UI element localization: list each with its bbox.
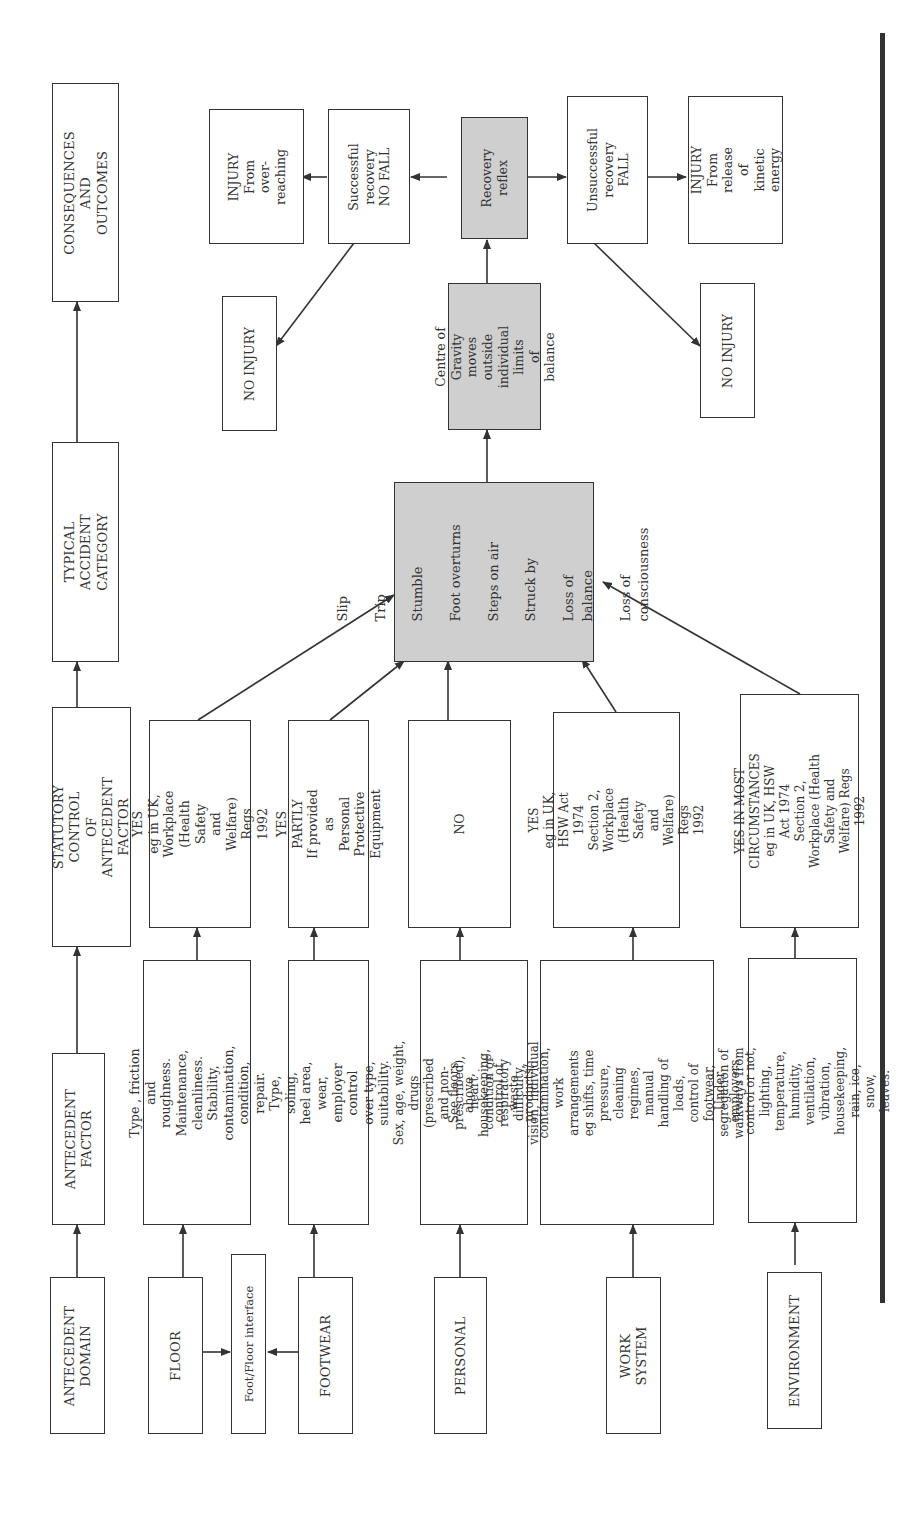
injury-overreaching-box: INJURY From over- reaching bbox=[209, 109, 304, 244]
factor-work-system: See floors above, housekeeping, control … bbox=[540, 960, 714, 1225]
domain-environment: ENVIRONMENT bbox=[767, 1272, 822, 1429]
consequences-header: CONSEQUENCES AND OUTCOMES bbox=[52, 83, 119, 302]
recovery-reflex-box: Recovery reflex bbox=[461, 117, 528, 239]
domain-foot-floor-interface: Foot/Floor interface bbox=[231, 1254, 266, 1434]
unsuccessful-recovery-box: Unsuccessful recovery FALL bbox=[567, 96, 648, 244]
statutory-control-header: STATUTORY CONTROL OF ANTECEDENT FACTOR bbox=[52, 707, 131, 947]
statutory-personal: NO bbox=[408, 720, 511, 928]
centre-of-gravity-box: Centre of Gravity moves outside individu… bbox=[448, 283, 541, 430]
no-injury-right-box: NO INJURY bbox=[700, 283, 755, 418]
domain-work-system: WORK SYSTEM bbox=[606, 1277, 661, 1434]
factor-floor: Type , friction and roughness. Maintenan… bbox=[143, 960, 251, 1225]
statutory-work-system: YES eg in UK, HSW Act 1974 Section 2, Wo… bbox=[553, 712, 680, 928]
successful-recovery-box: Successful recovery NO FALL bbox=[328, 109, 410, 244]
factor-environment: Under employers control or not, lighting… bbox=[748, 958, 857, 1223]
accident-category-list: Slip Trip Stumble Foot overturns Steps o… bbox=[315, 523, 673, 622]
antecedent-factor-header: ANTECEDENT FACTOR bbox=[52, 1053, 105, 1225]
antecedent-domain-header: ANTECEDENT DOMAIN bbox=[50, 1277, 105, 1434]
domain-floor: FLOOR bbox=[148, 1277, 203, 1434]
statutory-footwear: YES PARTLY If provided as Personal Prote… bbox=[288, 720, 369, 928]
domain-personal: PERSONAL bbox=[434, 1277, 487, 1434]
accident-category-box: Slip Trip Stumble Foot overturns Steps o… bbox=[394, 482, 594, 662]
statutory-environment: YES IN MOST CIRCUMSTANCES eg in UK, HSW … bbox=[740, 694, 859, 928]
factor-footwear: Type, soling, heel area, wear, employer … bbox=[288, 960, 369, 1225]
no-injury-left-box: NO INJURY bbox=[222, 296, 277, 431]
domain-footwear: FOOTWEAR bbox=[298, 1277, 353, 1434]
statutory-floor: YES eg in UK, Workplace (Health Safety a… bbox=[149, 720, 251, 928]
typical-accident-header: TYPICAL ACCIDENT CATEGORY bbox=[52, 442, 119, 662]
injury-kinetic-box: INJURY From release of kinetic energy bbox=[688, 96, 783, 244]
